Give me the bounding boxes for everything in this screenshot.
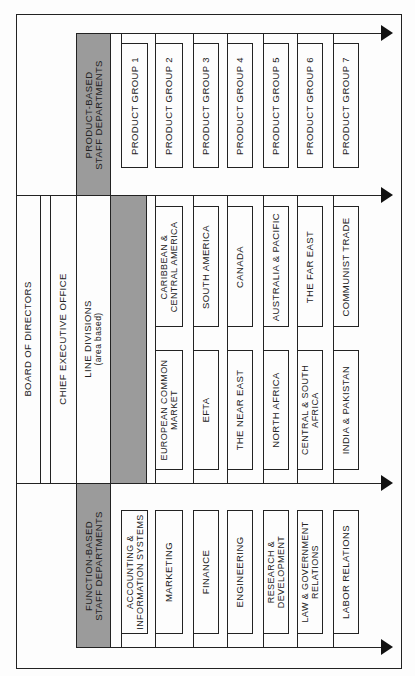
box-label-line2: AFRICA: [309, 392, 319, 427]
box-label-line2: RELATIONS: [309, 545, 319, 599]
connector: [193, 33, 194, 43]
product-arrow-line: [110, 33, 384, 34]
connector: [297, 195, 298, 206]
connector: [263, 195, 264, 206]
region-box: CENTRAL & SOUTHAFRICA: [297, 350, 323, 470]
box-label: CANADA: [235, 246, 245, 288]
board-of-directors: BOARD OF DIRECTORS: [16, 195, 40, 483]
line-divisions-title: LINE DIVISIONS: [83, 300, 93, 377]
product-group-box: PRODUCT GROUP 4: [227, 43, 253, 168]
region-box: SOUTH AMERICA: [193, 206, 219, 327]
connector: [227, 33, 228, 43]
product-group-box: PRODUCT GROUP 3: [193, 43, 219, 168]
box-label: PRODUCT GROUP 5: [271, 56, 281, 154]
product-group-box: PRODUCT GROUP 6: [297, 43, 323, 168]
product-group-box: PRODUCT GROUP 5: [263, 43, 289, 168]
box-label: THE NEAR EAST: [235, 370, 245, 451]
connector: [297, 634, 298, 648]
box-label: EFTA: [201, 397, 211, 422]
connector: [263, 634, 264, 648]
box-label: NORTH AFRICA: [271, 372, 281, 447]
box-label: PRODUCT GROUP 1: [130, 56, 140, 154]
region-box: EFTA: [193, 350, 219, 470]
function-based-header: FUNCTION-BASEDSTAFF DEPARTMENTS: [76, 483, 111, 648]
connector: [193, 195, 194, 206]
connector: [227, 634, 228, 648]
region-box: CARIBBEAN &CENTRAL AMERICA: [155, 206, 183, 327]
product-group-box: PRODUCT GROUP 7: [333, 43, 359, 168]
region-box: THE NEAR EAST: [227, 350, 253, 470]
box-label-line2: DEVELOPMENT: [275, 536, 285, 608]
line-divisions-subtitle: (area based): [93, 300, 103, 377]
arrow-right-icon: [381, 187, 393, 203]
function-dept-box: FINANCE: [193, 510, 219, 634]
box-label: AUSTRALIA & PACIFIC: [271, 212, 281, 320]
box-label-line2: INFORMATION SYSTEMS: [134, 514, 144, 629]
product-based-header: PRODUCT-BASEDSTAFF DEPARTMENTS: [76, 33, 111, 196]
region-box: THE FAR EAST: [297, 206, 323, 327]
function-header-line2: STAFF DEPARTMENTS: [93, 511, 104, 621]
line-arrow-line-bottom: [16, 483, 384, 484]
connector: [155, 33, 156, 43]
function-dept-box: LAW & GOVERNMENTRELATIONS: [297, 510, 323, 634]
box-label: INDIA & PAKISTAN: [341, 366, 351, 454]
box-label: PRODUCT GROUP 4: [235, 56, 245, 154]
connector: [297, 33, 298, 43]
line-arrow-line-top: [16, 195, 384, 196]
box-label: THE FAR EAST: [305, 230, 315, 302]
product-group-box: PRODUCT GROUP 2: [155, 43, 183, 168]
arrow-right-icon: [381, 639, 393, 655]
line-divisions: LINE DIVISIONS(area based): [76, 195, 110, 483]
region-box: EUROPEAN COMMONMARKET: [155, 350, 183, 470]
connector: [227, 195, 228, 206]
function-dept-box: LABOR RELATIONS: [333, 510, 359, 634]
connector: [121, 33, 122, 43]
connector: [155, 634, 156, 648]
connector: [333, 634, 334, 648]
function-dept-box: ENGINEERING: [227, 510, 253, 634]
connector: [155, 195, 156, 206]
box-label: ENGINEERING: [235, 537, 245, 608]
function-dept-box: RESEARCH &DEVELOPMENT: [263, 510, 289, 634]
product-group-box: PRODUCT GROUP 1: [121, 43, 148, 168]
region-box: NORTH AFRICA: [263, 350, 289, 470]
function-dept-box: ACCOUNTING &INFORMATION SYSTEMS: [121, 510, 148, 634]
region-box: COMMUNIST TRADE: [333, 206, 359, 327]
box-label: PRODUCT GROUP 6: [305, 56, 315, 154]
connector: [121, 634, 122, 648]
box-label: PRODUCT GROUP 2: [164, 56, 174, 154]
connector: [193, 634, 194, 648]
function-header-line1: FUNCTION-BASED: [84, 511, 94, 621]
box-label: PRODUCT GROUP 3: [201, 56, 211, 154]
product-header-line2: STAFF DEPARTMENTS: [93, 60, 104, 170]
region-box: INDIA & PAKISTAN: [333, 350, 359, 470]
region-box: CANADA: [227, 206, 253, 327]
box-label: LABOR RELATIONS: [341, 525, 351, 619]
box-label: PRODUCT GROUP 7: [341, 56, 351, 154]
box-label: COMMUNIST TRADE: [341, 217, 351, 316]
arrow-right-icon: [381, 25, 393, 41]
chief-executive-office: CHIEF EXECUTIVE OFFICE: [50, 195, 76, 483]
box-label: MARKETING: [164, 542, 174, 602]
board-divider: [40, 195, 41, 483]
box-label-line2: CENTRAL AMERICA: [168, 221, 178, 312]
product-header-line1: PRODUCT-BASED: [84, 60, 94, 170]
connector: [263, 33, 264, 43]
arrow-right-icon: [381, 475, 393, 491]
function-dept-box: MARKETING: [155, 510, 183, 634]
box-label: SOUTH AMERICA: [201, 225, 211, 309]
line-divisions-gray-bar: [110, 195, 147, 484]
box-label: FINANCE: [201, 550, 211, 595]
region-box: AUSTRALIA & PACIFIC: [263, 206, 289, 327]
connector: [333, 33, 334, 43]
box-label-line2: MARKET: [168, 390, 178, 430]
ceo-label: CHIEF EXECUTIVE OFFICE: [58, 273, 68, 404]
board-label: BOARD OF DIRECTORS: [23, 281, 33, 396]
connector: [333, 195, 334, 206]
